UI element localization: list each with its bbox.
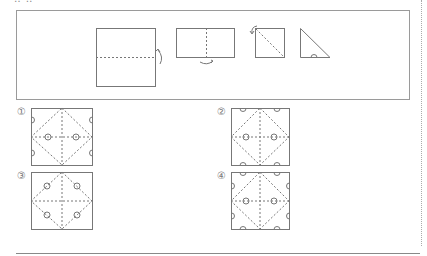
fold-step-1	[96, 29, 162, 87]
option-3-diagram[interactable]	[31, 172, 93, 230]
fold-step-3	[250, 26, 285, 58]
diagram-canvas	[0, 0, 427, 256]
option-2-label[interactable]: ②	[217, 106, 226, 117]
option-2-diagram[interactable]	[231, 108, 290, 166]
fold-step-4	[301, 29, 331, 58]
margin-rule	[421, 0, 422, 246]
option-1-diagram[interactable]	[31, 108, 93, 166]
bottom-rule	[16, 253, 420, 254]
option-4-diagram[interactable]	[231, 172, 290, 230]
arrowhead-icon	[211, 60, 213, 63]
option-4-label[interactable]: ④	[217, 170, 226, 181]
option-3-label[interactable]: ③	[17, 170, 26, 181]
fold-step-2	[177, 28, 235, 64]
option-1-label[interactable]: ①	[17, 106, 26, 117]
